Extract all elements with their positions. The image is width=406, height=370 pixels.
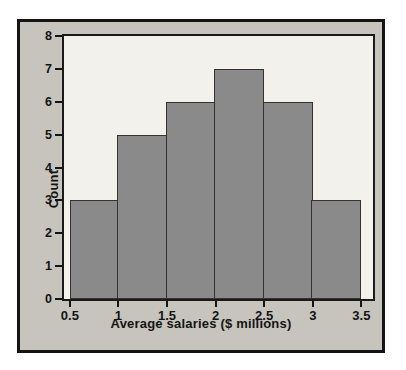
histogram-bar: [214, 69, 264, 299]
y-tick-label: 3: [45, 193, 52, 207]
y-tick-label: 5: [45, 128, 52, 142]
x-tick-mark: [215, 301, 217, 307]
x-tick-mark: [117, 301, 119, 307]
y-tick-label: 0: [45, 292, 52, 306]
histogram-bar: [166, 102, 216, 299]
x-tick-mark: [263, 301, 265, 307]
histogram-bar: [117, 135, 167, 299]
histogram-bar: [263, 102, 313, 299]
y-tick-mark: [55, 101, 62, 103]
x-tick-label: 1.5: [158, 308, 176, 323]
histogram-bar: [70, 200, 119, 299]
y-tick-label: 6: [45, 95, 52, 109]
histogram-bar: [311, 200, 361, 299]
x-tick-mark: [312, 301, 314, 307]
y-tick-mark: [55, 68, 62, 70]
y-tick-mark: [55, 298, 62, 300]
y-tick-mark: [55, 199, 62, 201]
y-tick-label: 8: [45, 29, 52, 43]
y-tick-label: 2: [45, 226, 52, 240]
plot-layers: 012345678 0.511.522.533.5: [64, 36, 373, 299]
x-tick-mark: [69, 301, 71, 307]
y-tick-label: 4: [45, 161, 52, 175]
x-tick-label: 2.5: [255, 308, 273, 323]
y-tick-label: 1: [45, 259, 52, 273]
plot-area: 012345678 0.511.522.533.5: [62, 34, 375, 301]
x-tick-mark: [360, 301, 362, 307]
y-tick-mark: [55, 134, 62, 136]
x-tick-label: 1: [115, 308, 122, 323]
figure-canvas: Count Average salaries ($ millions) 0123…: [0, 0, 406, 370]
y-tick-mark: [55, 35, 62, 37]
y-tick-label: 7: [45, 62, 52, 76]
y-tick-mark: [55, 167, 62, 169]
x-tick-label: 0.5: [61, 308, 79, 323]
x-tick-label: 3.5: [352, 308, 370, 323]
y-tick-mark: [55, 265, 62, 267]
x-tick-mark: [166, 301, 168, 307]
y-tick-mark: [55, 232, 62, 234]
x-tick-label: 3: [309, 308, 316, 323]
x-tick-label: 2: [212, 308, 219, 323]
